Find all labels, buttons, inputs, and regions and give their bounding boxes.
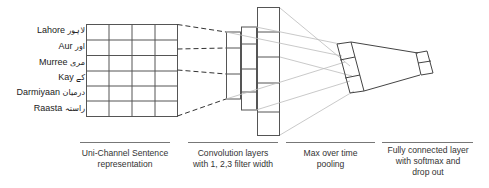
word-label-kay: Kay کے	[58, 72, 85, 83]
caption-fc: Fully connected layer with softmax and d…	[378, 145, 478, 178]
caption-input-line2: representation	[74, 159, 176, 170]
max-pooling-vector	[337, 42, 364, 93]
word-english: Murree	[39, 57, 68, 67]
word-urdu: مری	[70, 58, 85, 67]
caption-input-line1: Uni-Channel Sentence	[74, 148, 176, 159]
word-label-darmiyaan: Darmiyaan درمیان	[17, 87, 85, 98]
word-urdu: لاہور	[67, 26, 85, 35]
caption-pool-line1: Max over time	[283, 148, 378, 159]
caption-fc-line3: drop out	[378, 167, 478, 178]
word-urdu: درمیان	[63, 88, 85, 97]
word-english: Raasta	[34, 103, 63, 113]
word-english: Lahore	[37, 25, 65, 35]
caption-conv: Convolution layers with 1, 2,3 filter wi…	[181, 148, 285, 170]
fully-connected-output	[416, 51, 433, 75]
word-english: Darmiyaan	[17, 87, 61, 97]
caption-pool: Max over time pooling	[283, 148, 378, 170]
caption-fc-line2: with softmax and	[378, 156, 478, 167]
conv-layer-3	[258, 8, 280, 136]
conv-layer-2	[242, 27, 257, 110]
word-label-lahore: Lahore لاہور	[37, 25, 85, 36]
word-english: Aur	[59, 41, 73, 51]
filter-connectors	[178, 25, 227, 117]
conv-layer-1	[227, 32, 241, 99]
word-urdu: کے	[76, 73, 85, 82]
caption-conv-line2: with 1, 2,3 filter width	[181, 159, 285, 170]
word-urdu: اور	[75, 42, 85, 51]
word-label-murree: Murree مری	[39, 57, 85, 68]
word-english: Kay	[58, 72, 74, 82]
caption-conv-line1: Convolution layers	[181, 148, 285, 159]
caption-pool-line2: pooling	[283, 159, 378, 170]
caption-fc-line1: Fully connected layer	[378, 145, 478, 156]
word-label-aur: Aur اور	[59, 41, 85, 52]
fc-connectors	[351, 42, 420, 91]
word-label-raasta: Raasta راستہ	[34, 103, 85, 114]
word-urdu: راستہ	[65, 104, 85, 113]
caption-input: Uni-Channel Sentence representation	[74, 148, 176, 170]
input-matrix	[87, 25, 178, 117]
